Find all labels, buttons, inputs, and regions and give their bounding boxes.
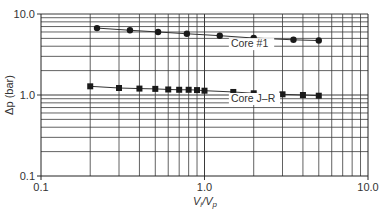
square-marker	[165, 86, 171, 92]
circle-marker	[184, 31, 190, 37]
series-label: Core #1	[231, 37, 269, 49]
square-marker	[152, 86, 158, 92]
x-tick-label: 10.0	[357, 181, 378, 193]
series-label: Core J–R	[231, 92, 276, 104]
square-marker	[87, 83, 93, 89]
square-marker	[116, 85, 122, 91]
series-labels: Core #1Core J–R	[229, 37, 280, 105]
square-marker	[176, 87, 182, 93]
circle-marker	[290, 37, 296, 43]
circle-marker	[127, 27, 133, 33]
circle-marker	[316, 37, 322, 43]
square-marker	[202, 88, 208, 94]
circle-marker	[217, 32, 223, 38]
square-marker	[136, 86, 142, 92]
y-axis-title: Δp (bar)	[3, 75, 15, 115]
square-marker	[316, 93, 322, 99]
square-marker	[280, 91, 286, 97]
square-marker	[300, 92, 306, 98]
circle-marker	[94, 25, 100, 31]
log-log-chart: Core #1Core J–R 0.11.010.00.11.010.0 Δp …	[0, 0, 384, 213]
y-tick-label: 1.0	[20, 89, 35, 101]
square-marker	[186, 87, 192, 93]
x-axis-title: Vi/Vp	[193, 195, 218, 209]
x-tick-label: 1.0	[197, 181, 212, 193]
square-marker	[194, 87, 200, 93]
x-tick-label: 0.1	[33, 181, 48, 193]
y-tick-label: 10.0	[14, 8, 35, 20]
circle-marker	[155, 29, 161, 35]
tick-labels: 0.11.010.00.11.010.0	[14, 8, 379, 193]
